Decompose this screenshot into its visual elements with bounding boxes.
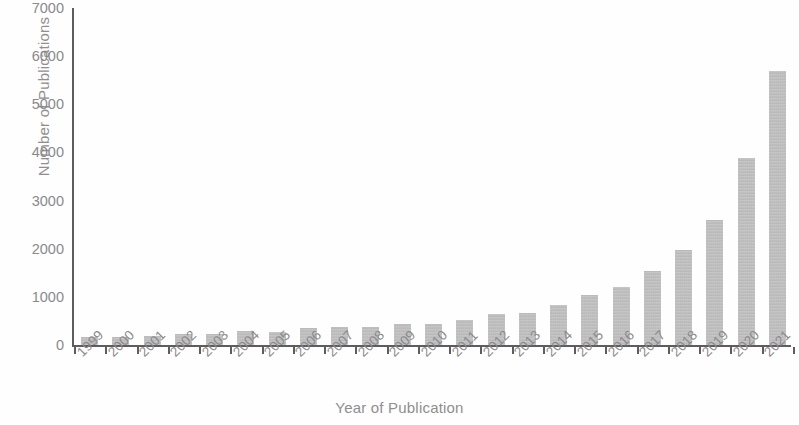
y-axis-tick-label: 0 [20, 338, 64, 353]
plot-area [72, 8, 791, 345]
y-axis-tick-labels: 01000200030004000500060007000 [14, 0, 64, 425]
bar-series [72, 8, 791, 345]
bar [738, 158, 755, 345]
y-axis-tick-label: 6000 [20, 49, 64, 64]
y-axis-tick-label: 5000 [20, 97, 64, 112]
bar [769, 71, 786, 345]
y-axis-tick-label: 3000 [20, 194, 64, 209]
y-axis-tick-label: 2000 [20, 242, 64, 257]
x-axis-title: Year of Publication [0, 399, 799, 416]
x-axis-tick-labels: 1999200020012002200320042005200620072008… [72, 349, 799, 397]
bar-chart: Number of Publications 01000200030004000… [0, 0, 799, 425]
y-axis-tick-label: 7000 [20, 1, 64, 16]
y-axis-tick-label: 1000 [20, 290, 64, 305]
y-axis-tick-label: 4000 [20, 145, 64, 160]
